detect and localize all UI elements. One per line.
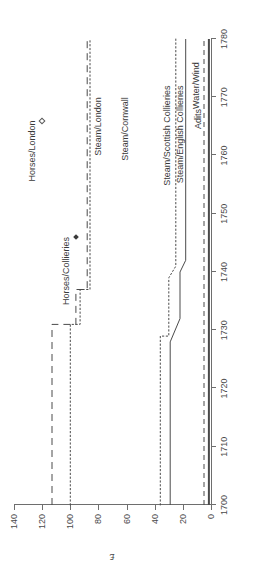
x-tick	[211, 388, 216, 389]
series-label: Horses/Collieries	[62, 237, 71, 305]
y-tick	[183, 505, 184, 510]
y-tick-label: 20	[178, 514, 188, 524]
x-tick-label: 1710	[219, 437, 229, 457]
x-tick-label: 1730	[219, 320, 229, 340]
x-tick	[211, 155, 216, 156]
series-label: Steam/Cornwall	[121, 97, 130, 161]
x-tick-label: 1700	[219, 495, 229, 515]
y-tick-label: 40	[150, 514, 160, 524]
y-tick	[70, 505, 71, 510]
x-tick	[211, 96, 216, 97]
x-tick	[211, 446, 216, 447]
y-tick-label: 100	[65, 514, 75, 529]
y-tick-label: 0	[206, 514, 216, 519]
y-tick-label: 60	[122, 514, 132, 524]
series-label: Horses/London	[28, 121, 37, 182]
x-tick-label: 1780	[219, 29, 229, 49]
x-tick	[211, 38, 216, 39]
x-tick-label: 1750	[219, 204, 229, 224]
plot-area: Horses/CollieriesHorses/LondonSteam/Lond…	[14, 39, 211, 505]
y-tick	[14, 505, 15, 510]
y-tick-label: 140	[9, 514, 19, 529]
x-tick-label: 1740	[219, 262, 229, 282]
x-axis-line	[211, 39, 212, 505]
x-tick	[211, 213, 216, 214]
y-tick	[42, 505, 43, 510]
y-tick-label: 120	[37, 514, 47, 529]
x-tick-label: 1720	[219, 378, 229, 398]
x-tick	[211, 271, 216, 272]
series-label: Water/Wind	[191, 62, 200, 109]
x-tick	[211, 329, 216, 330]
series-label: Adits	[194, 109, 203, 129]
y-tick	[98, 505, 99, 510]
y-tick	[211, 505, 212, 510]
rotated-chart-wrapper: 170017101720173017401750176017701780 020…	[0, 0, 273, 577]
series-label: Steam/London	[94, 97, 103, 156]
x-tick-label: 1760	[219, 145, 229, 165]
y-tick	[127, 505, 128, 510]
y-tick	[155, 505, 156, 510]
series-label: Steam/English Collieries	[176, 86, 185, 184]
y-axis-title: £	[109, 552, 114, 562]
chart-canvas: 170017101720173017401750176017701780 020…	[0, 0, 273, 577]
x-tick-label: 1770	[219, 87, 229, 107]
y-tick-label: 80	[93, 514, 103, 524]
series-label: Steam/Scottish Collieries	[163, 86, 172, 186]
